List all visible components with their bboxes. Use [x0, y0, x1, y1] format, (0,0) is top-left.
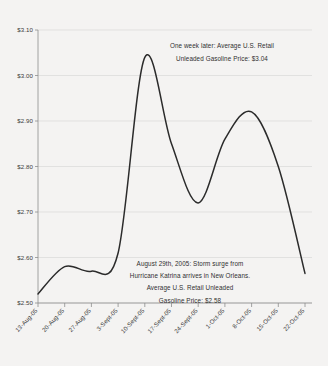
x-tick-label: 10-Sept-05	[119, 307, 146, 335]
x-axis-tick-labels: 13-Aug-0520-Aug-0527-Aug-053-Sept-0510-S…	[14, 307, 306, 335]
annotation-line: Gasoline Price: $2.58	[159, 297, 222, 304]
x-tick-label: 24-Sept-05	[173, 307, 200, 335]
annotation-line: One week later: Average U.S. Retail	[170, 42, 274, 50]
x-tick-label: 3-Sept-05	[95, 307, 119, 332]
y-tick-label: $3.10	[17, 26, 33, 33]
x-tick-label: 20-Aug-05	[40, 307, 65, 334]
price-line	[38, 55, 305, 294]
chart-canvas: $3.10$3.00$2.90$2.80$2.70$2.60$2.50 13-A…	[0, 0, 328, 366]
y-tick-label: $2.70	[17, 208, 33, 215]
katrina-annotation: August 29th, 2005: Storm surge fromHurri…	[130, 260, 250, 304]
x-tick-label: 8-Oct-05	[230, 307, 252, 330]
annotation-line: Average U.S. Retail Unleaded	[147, 284, 234, 292]
y-tick-label: $2.60	[17, 254, 33, 261]
x-tick-label: 22-Oct-05	[282, 307, 307, 333]
x-tick-label: 1-Oct-05	[204, 307, 226, 330]
x-tick-label: 15-Oct-05	[255, 307, 280, 333]
annotation-line: Hurricane Katrina arrives in New Orleans…	[130, 272, 250, 279]
annotation-line: August 29th, 2005: Storm surge from	[137, 260, 244, 268]
y-tick-label: $2.50	[17, 299, 33, 306]
price-series	[38, 55, 305, 294]
gasoline-price-line-chart: $3.10$3.00$2.90$2.80$2.70$2.60$2.50 13-A…	[0, 0, 328, 366]
x-tick-label: 17-Sept-05	[146, 307, 173, 335]
x-tick-label: 13-Aug-05	[14, 307, 39, 334]
x-tick-label: 27-Aug-05	[67, 307, 92, 334]
peak-annotation: One week later: Average U.S. RetailUnlea…	[170, 42, 274, 62]
y-tick-label: $2.80	[17, 163, 33, 170]
y-axis-tick-labels: $3.10$3.00$2.90$2.80$2.70$2.60$2.50	[17, 26, 33, 306]
annotation-line: Unleaded Gasoline Price: $3.04	[176, 55, 268, 62]
y-tick-label: $3.00	[17, 72, 33, 79]
y-tick-label: $2.90	[17, 117, 33, 124]
